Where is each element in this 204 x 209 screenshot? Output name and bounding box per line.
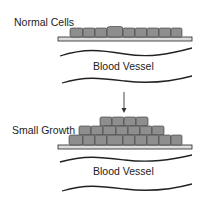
- cell-stack: [69, 117, 182, 145]
- progression-arrow: [122, 92, 127, 113]
- blood-vessel-label: Blood Vessel: [93, 60, 154, 72]
- basement-membrane: [58, 37, 192, 41]
- blood-vessel-label: Blood Vessel: [93, 165, 154, 177]
- vessel-wall-bottom: [62, 76, 192, 83]
- vessel-wall-top: [60, 48, 192, 56]
- vessel-wall-bottom: [62, 184, 192, 191]
- small-growth-panel: [58, 117, 192, 191]
- diagram: [0, 0, 204, 209]
- small-growth-label: Small Growth: [12, 124, 75, 136]
- vessel-wall-top: [60, 155, 192, 162]
- normal-cells-panel: [58, 27, 192, 84]
- normal-cells-label: Normal Cells: [14, 16, 74, 28]
- basement-membrane: [58, 145, 192, 149]
- cell-row: [70, 27, 182, 38]
